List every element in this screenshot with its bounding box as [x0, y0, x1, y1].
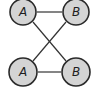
node-label: B [72, 5, 80, 19]
node-bottom-a: A [9, 58, 37, 86]
node-top-b: B [63, 0, 89, 25]
edges [33, 12, 66, 72]
node-label: B [72, 65, 80, 79]
node-top-a: A [10, 0, 36, 25]
node-label: A [18, 5, 27, 19]
node-bottom-b: B [62, 58, 90, 86]
bipartite-diagram: A B A B [0, 0, 95, 93]
node-label: A [18, 65, 27, 79]
